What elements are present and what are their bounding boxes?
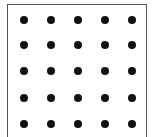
grid-dot	[47, 16, 55, 24]
grid-dot	[47, 94, 55, 102]
grid-dot	[74, 16, 82, 24]
grid-dot	[20, 16, 28, 24]
grid-dot	[101, 94, 109, 102]
grid-dot	[47, 41, 55, 49]
grid-dot	[128, 67, 136, 75]
grid-dot	[101, 16, 109, 24]
grid-dot	[74, 94, 82, 102]
grid-dot	[128, 16, 136, 24]
grid-dot	[128, 120, 136, 128]
grid-dot	[20, 41, 28, 49]
grid-dot	[101, 120, 109, 128]
grid-dot	[101, 41, 109, 49]
grid-dot	[47, 120, 55, 128]
grid-dot	[20, 67, 28, 75]
grid-dot	[47, 67, 55, 75]
grid-dot	[128, 41, 136, 49]
grid-dot	[128, 94, 136, 102]
grid-dot	[74, 120, 82, 128]
grid-dot	[101, 67, 109, 75]
grid-dot	[74, 67, 82, 75]
grid-dot	[20, 120, 28, 128]
grid-dot	[74, 41, 82, 49]
grid-dot	[20, 94, 28, 102]
